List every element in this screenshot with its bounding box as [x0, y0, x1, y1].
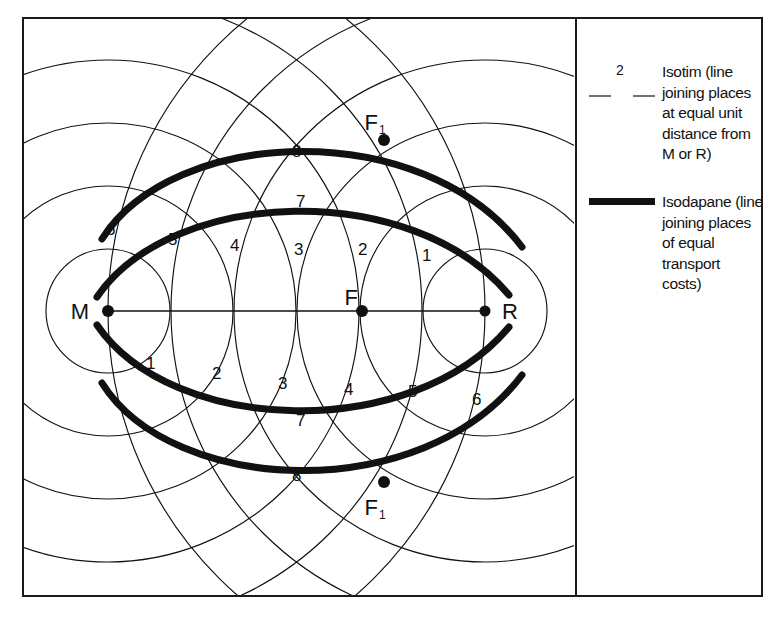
isotim-label-lower-4: 4	[344, 380, 353, 399]
isodapane-label-upper-8: 8	[292, 142, 301, 161]
isotim-label-lower-5: 5	[408, 382, 417, 401]
f1-top-subscript: 1	[379, 123, 386, 137]
isotim-sample-number: 2	[616, 62, 624, 78]
isotim-label-upper-2: 2	[358, 240, 367, 259]
point-label-F: F	[345, 285, 358, 310]
point-label-F1-bottom: F 1	[365, 495, 386, 522]
isotim-M-6	[22, 17, 485, 597]
point-label-M: M	[71, 299, 89, 324]
point-label-R: R	[502, 299, 518, 324]
f1-top-letter: F	[365, 110, 378, 135]
isotim-label-lower-2: 2	[212, 364, 221, 383]
point-marker-R	[480, 306, 491, 317]
isotim-circles-M	[22, 17, 485, 597]
isotim-label-lower-1: 1	[146, 354, 155, 373]
isodapane-sample-line	[589, 198, 655, 205]
isodapane-7-lower	[97, 325, 509, 411]
isotim-label-upper-1: 1	[422, 246, 431, 265]
legend-panel: 2 Isotim (line joining places at equal u…	[586, 17, 763, 597]
isotim-label-upper-3: 3	[294, 240, 303, 259]
isotim-sample-line	[589, 85, 655, 99]
point-marker-F1-bottom	[378, 476, 390, 488]
point-marker-M	[102, 305, 114, 317]
isodapane-label-upper-7: 7	[296, 192, 305, 211]
isotim-label-lower-3: 3	[278, 374, 287, 393]
weber-diagram: M F R F 1 F 1 6 5 4 3 2 1 1	[22, 17, 576, 597]
legend-isodapane-text: Isodapane (line joining places of equal …	[662, 192, 763, 295]
isotim-label-lower-6: 6	[472, 390, 481, 409]
isotim-label-upper-6: 6	[106, 220, 115, 239]
legend-isotim-text: Isotim (line joining places at equal uni…	[662, 62, 763, 165]
f1-bottom-subscript: 1	[379, 508, 386, 522]
figure-root: M F R F 1 F 1 6 5 4 3 2 1 1	[0, 0, 782, 617]
f1-bottom-letter: F	[365, 495, 378, 520]
isodapane-labels: 8 7 7 8	[292, 142, 305, 485]
isotim-label-upper-5: 5	[168, 230, 177, 249]
isodapane-label-lower-8: 8	[292, 466, 301, 485]
isodapane-label-lower-7: 7	[296, 411, 305, 430]
isotim-label-upper-4: 4	[230, 236, 239, 255]
point-label-F1-top: F 1	[365, 110, 386, 137]
